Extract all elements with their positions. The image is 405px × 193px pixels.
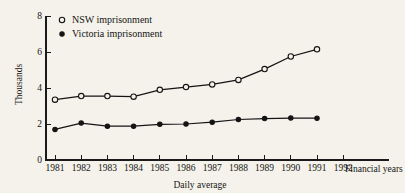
y-tick-label: 6 [37,47,42,57]
data-point [131,94,136,99]
legend-marker [59,17,64,22]
data-point [236,117,240,121]
data-point [289,116,293,120]
data-point [79,93,84,98]
data-point [52,97,57,102]
x-tick-label: 1985 [150,163,169,173]
data-point [131,124,135,128]
x-tick-label: 1986 [177,163,196,173]
data-point [158,122,162,126]
legend-label: Victoria imprisonment [72,28,162,39]
data-point [79,121,83,125]
x-tick-label: 1988 [229,163,248,173]
data-point [183,84,188,89]
data-point [288,54,293,59]
data-point [184,122,188,126]
legend-label: NSW imprisonment [72,14,152,25]
x-tick-label: 1990 [281,163,300,173]
data-point [236,77,241,82]
y-tick-label: 0 [37,155,42,165]
data-point [262,116,266,120]
x-tick-label: 1984 [124,163,143,173]
y-tick-label: 4 [37,83,42,93]
chart-canvas: 02468 1981198219831984198519861987198819… [0,0,405,193]
data-point [262,66,267,71]
imprisonment-line-chart: 02468 1981198219831984198519861987198819… [0,0,405,193]
x-axis-note: Financial years [345,164,403,174]
data-point [157,87,162,92]
data-point [210,120,214,124]
x-tick-label: 1981 [46,163,65,173]
y-axis-label: Thousands [14,64,24,105]
data-point [105,124,109,128]
x-tick-label: 1987 [203,163,222,173]
y-tick-label: 8 [37,11,42,21]
x-tick-label: 1989 [255,163,274,173]
data-point [314,47,319,52]
data-point [105,93,110,98]
x-tick-label: 1991 [308,163,327,173]
data-point [53,127,57,131]
x-axis-label: Daily average [173,180,226,190]
data-point [210,82,215,87]
y-tick-label: 2 [37,119,42,129]
x-tick-label: 1983 [98,163,117,173]
data-point [315,116,319,120]
x-tick-label: 1982 [72,163,91,173]
legend-marker [60,32,64,36]
